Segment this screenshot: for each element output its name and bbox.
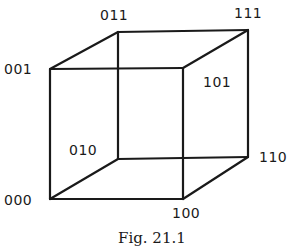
vertex-label-000: 000 (4, 193, 32, 207)
figure-caption: Fig. 21.1 (118, 231, 186, 246)
vertex-label-100: 100 (172, 206, 200, 220)
cube-edges (50, 30, 248, 199)
vertex-label-111: 111 (234, 6, 262, 20)
edge-011-111 (118, 30, 248, 32)
edge-000-010 (50, 159, 118, 199)
edge-101-111 (183, 30, 248, 68)
vertex-label-010: 010 (69, 143, 97, 157)
vertex-label-110: 110 (259, 150, 287, 164)
vertex-label-001: 001 (4, 62, 32, 76)
vertex-label-011: 011 (100, 8, 128, 22)
edge-001-101 (50, 68, 183, 69)
edge-100-110 (183, 157, 248, 199)
edge-001-011 (50, 32, 118, 69)
vertex-label-101: 101 (203, 75, 231, 89)
